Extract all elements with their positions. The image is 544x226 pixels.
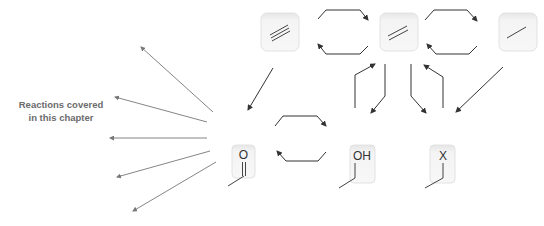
outgoing-reaction-arrows <box>110 47 216 211</box>
alkene-molecule <box>380 13 418 51</box>
alkane-molecule <box>499 13 537 51</box>
alkyne-alkene-arrows <box>318 10 368 54</box>
alkene-alkane-arrows <box>425 10 477 54</box>
alkyne-molecule <box>261 13 299 51</box>
alkyne-to-carbonyl-arrow <box>248 68 273 110</box>
carbonyl-oxygen-atom: O <box>239 148 248 162</box>
alkane-to-halide-arrow <box>456 67 503 112</box>
carbonyl-alcohol-arrows <box>275 116 326 161</box>
alcohol-molecule: OH <box>339 145 375 188</box>
alcohol-hydroxyl-group: OH <box>353 149 371 163</box>
halide-x-atom: X <box>439 149 447 163</box>
reaction-diagram: O OH X <box>0 0 544 226</box>
alcohol-alkene-arrows <box>355 64 385 113</box>
halide-molecule: X <box>425 145 455 188</box>
carbonyl-molecule: O <box>228 145 255 186</box>
alkene-halide-arrows <box>411 64 443 113</box>
